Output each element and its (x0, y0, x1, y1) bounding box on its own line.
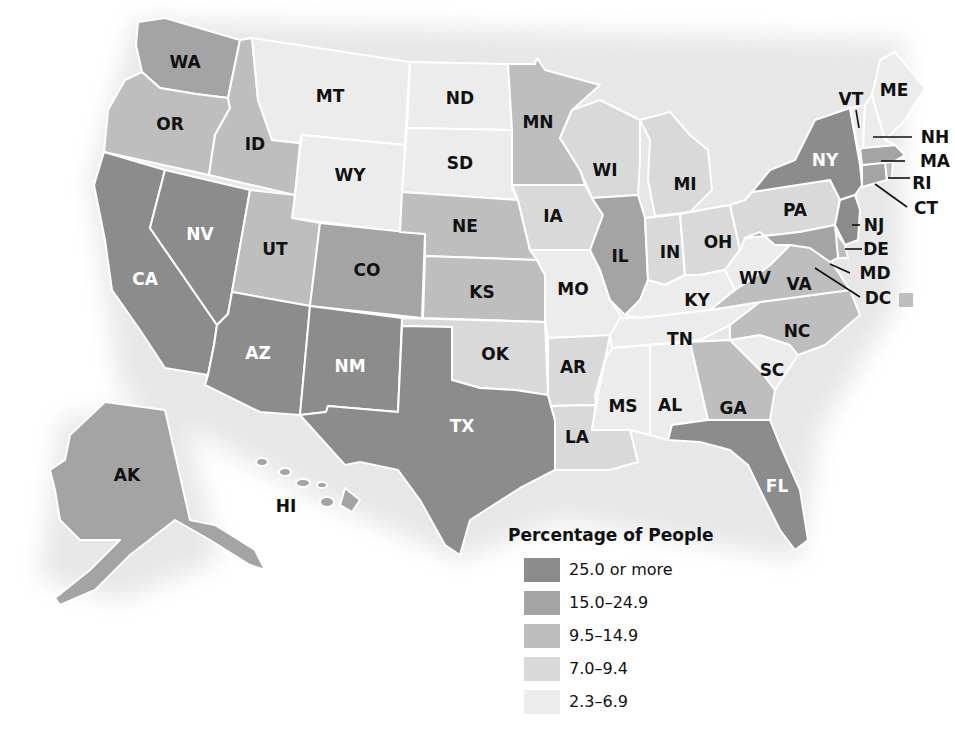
state-label-me: ME (880, 80, 909, 100)
state-label-mt: MT (316, 86, 345, 106)
state-label-ms: MS (608, 396, 637, 416)
legend-swatch (524, 558, 560, 582)
state-label-nh: NH (921, 127, 949, 147)
state-label-fl: FL (766, 476, 789, 496)
state-label-sd: SD (447, 153, 473, 173)
legend-swatch (524, 657, 560, 681)
state-label-nv: NV (186, 224, 214, 244)
state-label-tx: TX (450, 416, 475, 436)
state-label-ks: KS (469, 282, 494, 302)
legend-item: 2.3–6.9 (508, 685, 714, 718)
state-label-ct: CT (914, 198, 938, 218)
legend-item: 7.0–9.4 (508, 652, 714, 685)
state-label-pa: PA (783, 200, 808, 220)
state-label-wa: WA (169, 52, 201, 72)
legend-swatch (524, 624, 560, 648)
state-label-hi: HI (276, 496, 297, 516)
map-legend: Percentage of People 25.0 or more 15.0–2… (508, 525, 714, 718)
state-label-nd: ND (446, 88, 474, 108)
state-label-ok: OK (481, 344, 509, 364)
legend-item: 9.5–14.9 (508, 619, 714, 652)
legend-item: 25.0 or more (508, 553, 714, 586)
state-label-sc: SC (760, 360, 785, 380)
state-label-ca: CA (132, 269, 158, 289)
legend-label: 7.0–9.4 (569, 659, 628, 678)
state-label-mi: MI (673, 174, 696, 194)
legend-swatch (524, 591, 560, 615)
state-label-mo: MO (557, 279, 588, 299)
state-label-vt: VT (839, 89, 864, 109)
state-label-al: AL (658, 395, 682, 415)
state-label-ia: IA (543, 206, 563, 226)
state-label-id: ID (245, 134, 265, 154)
legend-label: 2.3–6.9 (569, 692, 628, 711)
state-label-ne: NE (452, 216, 478, 236)
state-label-nc: NC (784, 321, 811, 341)
state-label-nm: NM (334, 356, 365, 376)
state-label-in: IN (660, 242, 681, 262)
state-label-oh: OH (704, 232, 733, 252)
state-label-mn: MN (522, 112, 553, 132)
us-choropleth-map: WA OR ID MT WY NV CA UT CO AZ NM ND SD N… (0, 0, 955, 734)
state-label-ky: KY (684, 290, 710, 310)
legend-label: 15.0–24.9 (569, 593, 648, 612)
state-label-wi: WI (592, 160, 617, 180)
legend-title: Percentage of People (508, 525, 714, 545)
state-label-de: DE (863, 239, 889, 259)
state-label-il: IL (611, 246, 628, 266)
state-label-ga: GA (719, 398, 747, 418)
legend-label: 25.0 or more (569, 560, 673, 579)
state-label-ak: AK (114, 465, 141, 485)
state-label-va: VA (786, 274, 812, 294)
state-label-ri: RI (912, 173, 931, 193)
state-label-ar: AR (560, 357, 586, 377)
state-label-or: OR (156, 114, 184, 134)
legend-item: 15.0–24.9 (508, 586, 714, 619)
state-label-az: AZ (245, 343, 270, 363)
state-label-co: CO (354, 260, 381, 280)
state-label-dc: DC (865, 288, 892, 308)
state-label-wy: WY (334, 165, 366, 185)
dc-swatch (899, 293, 913, 307)
state-label-ny: NY (812, 150, 839, 170)
state-label-md: MD (859, 263, 890, 283)
state-label-tn: TN (667, 329, 693, 349)
state-label-ut: UT (262, 239, 288, 259)
state-label-wv: WV (739, 268, 772, 288)
legend-label: 9.5–14.9 (569, 626, 638, 645)
state-label-ma: MA (920, 151, 951, 171)
state-label-la: LA (565, 427, 590, 447)
state-label-nj: NJ (864, 215, 885, 235)
legend-swatch (524, 690, 560, 714)
